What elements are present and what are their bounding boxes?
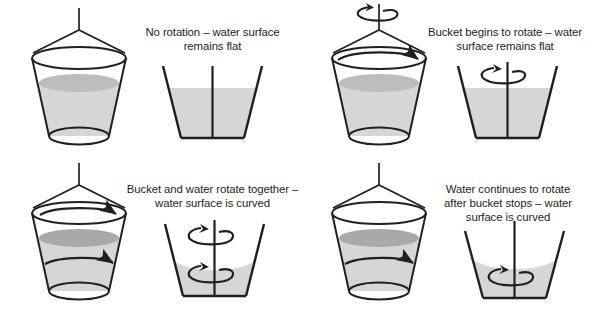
water-surface-ellipse-curved bbox=[39, 229, 119, 247]
water-fill bbox=[24, 83, 139, 143]
spin-arrow-above-water bbox=[482, 68, 525, 83]
panel-3-caption: Bucket and water rotate together – water… bbox=[105, 182, 320, 210]
panel-2-caption: Bucket begins to rotate – water surface … bbox=[410, 25, 600, 53]
cross-section-svg bbox=[155, 218, 275, 313]
cross-section-svg bbox=[155, 60, 270, 152]
panel-4-caption: Water continues to rotate after bucket s… bbox=[418, 182, 598, 225]
spin-arrow-above-water bbox=[189, 228, 233, 244]
panel-2-cross-section bbox=[450, 60, 565, 152]
water-surface-ellipse-curved bbox=[339, 229, 419, 247]
wall-right bbox=[246, 224, 264, 296]
panel-3-cross-section bbox=[155, 218, 275, 313]
wall-left bbox=[165, 224, 183, 296]
rim-rotation-arrow bbox=[338, 52, 418, 60]
panel-4-cross-section bbox=[455, 225, 575, 313]
water-fill bbox=[24, 238, 139, 298]
panel-1-caption: No rotation – water surface remains flat bbox=[125, 25, 300, 53]
water-fill bbox=[324, 83, 439, 143]
cross-section-svg bbox=[450, 60, 565, 152]
water-fill bbox=[324, 238, 439, 298]
bucket-rim-ellipse bbox=[332, 202, 426, 224]
bucket-rim-ellipse bbox=[32, 47, 126, 69]
axis-spin-arrow bbox=[358, 7, 398, 21]
water-surface-ellipse bbox=[339, 74, 419, 92]
cross-section-svg bbox=[455, 225, 575, 313]
panel-1-cross-section bbox=[155, 60, 270, 152]
bucket-rotation-figure: No rotation – water surface remains flat bbox=[0, 0, 601, 313]
water-surface-ellipse bbox=[39, 74, 119, 92]
